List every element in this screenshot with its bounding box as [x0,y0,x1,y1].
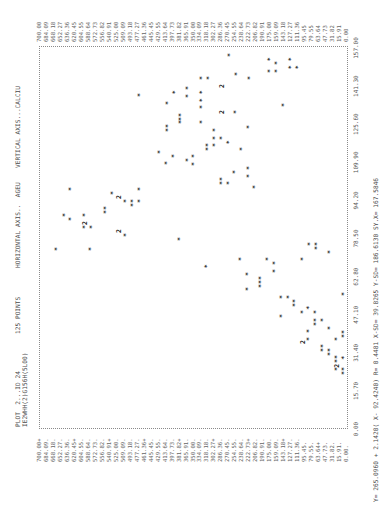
y-tick-label: 429.55. [155,438,161,462]
y-tick-label-right: 461.36 [141,22,147,42]
y-tick-label: 63.64+ [315,442,321,462]
point-marker: * [232,170,238,174]
point-marker: * [341,292,347,296]
y-tick-label-right: 350.00 [190,22,196,42]
y-tick-label: 381.82+ [176,438,182,462]
y-tick-label-right: 684.09 [43,22,49,42]
y-tick-label-right: 493.18 [127,22,133,42]
point-marker: * [212,128,218,132]
y-tick-label-right: 334.09 [196,22,202,42]
y-tick-label: 270.45. [224,438,230,462]
y-tick-label: 461.36+ [141,438,147,462]
y-tick-label: 238.64. [238,438,244,462]
y-tick-label-right: 159.09 [273,22,279,42]
point-marker: * [226,181,232,185]
y-tick-label: 668.18. [50,438,56,462]
point-marker: * [199,98,205,102]
y-tick-label-right: 556.82 [99,22,105,42]
point-marker: * [341,371,347,375]
point-marker: * [68,187,74,191]
point-marker: * [165,128,171,132]
x-tick-label: 125.60 [352,113,359,135]
y-tick-label-right: 95.45 [301,25,307,42]
y-tick-label-right: 175.00 [266,22,272,42]
y-tick-label: 540.91+ [106,438,112,462]
double-point-marker: 2 [219,84,225,88]
point-marker: * [341,356,347,360]
y-tick-label: 47.73. [322,442,328,462]
y-tick-label-right: 540.91 [106,22,112,42]
y-tick-label-right: 0.00 [343,29,349,42]
x-tick-label: 31.40 [352,344,359,362]
x-tick-label: 62.80 [352,268,359,286]
y-tick-label: 0.00. [343,445,349,462]
point-marker: * [327,326,333,330]
point-marker: * [199,105,205,109]
x-tick-label: 157.00 [352,37,359,59]
x-tick-label: 15.70 [352,382,359,400]
y-tick-label-right: 143.18 [280,22,286,42]
point-marker: * [157,150,163,154]
y-tick-label: 572.73. [92,438,98,462]
point-marker: * [137,93,143,97]
y-tick-label-right: 63.64 [315,25,321,42]
y-tick-label: 302.27+ [210,438,216,462]
y-tick-label: 556.82. [99,438,105,462]
y-tick-label-right: 127.27 [287,22,293,42]
y-tick-label-right: 111.36 [294,22,300,42]
y-tick-label: 15.91. [336,442,342,462]
point-marker: * [334,337,340,341]
y-tick-label: 334.09. [196,438,202,462]
plot-frame [39,46,348,429]
point-marker: * [185,94,191,98]
point-marker: * [178,120,184,124]
y-tick-label-right: 190.91 [259,22,265,42]
point-marker: * [252,185,258,189]
point-marker: * [246,174,252,178]
y-tick-label: 700.00+ [36,438,42,462]
y-tick-label-right: 302.27 [210,22,216,42]
y-tick-label: 222.73+ [245,438,251,462]
y-tick-label-right: 222.73 [245,22,251,42]
y-tick-label: 318.18. [203,438,209,462]
point-marker: * [281,103,287,107]
point-marker: * [314,246,320,250]
point-marker: * [295,65,301,69]
plot-subtitle: IE2WHH(2)G156H(5L00) [21,352,28,427]
y-tick-label-right: 445.45 [148,22,154,42]
y-tick-label-right: 381.82 [176,22,182,42]
point-marker: * [341,334,347,338]
point-marker: * [306,329,312,333]
point-marker: * [88,247,94,251]
y-tick-label: 413.64. [162,438,168,462]
point-marker: * [245,287,251,291]
point-marker: * [300,257,306,261]
y-tick-label-right: 206.82 [252,22,258,42]
x-tick-label: 47.10 [352,306,359,324]
point-marker: * [172,90,178,94]
y-tick-label-right: 413.64 [162,22,168,42]
y-tick-label-right: 525.00 [113,22,119,42]
y-tick-label: 397.73. [169,438,175,462]
y-tick-label: 286.36. [217,438,223,462]
point-marker: * [82,213,88,217]
y-tick-label: 190.91. [259,438,265,462]
point-marker: * [164,161,170,165]
y-tick-label-right: 270.45 [224,22,230,42]
point-marker: * [205,147,211,151]
y-tick-label-right: 620.45 [71,22,77,42]
y-tick-label: 143.18+ [280,438,286,462]
y-tick-label-right: 509.09 [120,22,126,42]
y-tick-label: 175.00. [266,438,272,462]
point-marker: * [239,147,245,151]
y-tick-label: 254.55. [231,438,237,462]
point-marker: * [204,264,210,268]
x-tick-label: 109.90 [352,151,359,173]
point-marker: * [313,310,319,314]
point-marker: * [246,166,252,170]
y-tick-label-right: 79.55 [308,25,314,42]
y-tick-label: 445.45. [148,438,154,462]
point-marker: * [272,269,278,273]
y-tick-label-right: 636.36 [64,22,70,42]
y-tick-label: 206.82. [252,438,258,462]
